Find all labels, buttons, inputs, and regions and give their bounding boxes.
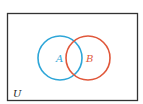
- set-b-label: B: [85, 53, 93, 64]
- set-a-label: A: [55, 53, 63, 64]
- venn-diagram: A B U: [0, 0, 143, 104]
- universe-rectangle: [8, 14, 138, 101]
- universe-label: U: [13, 88, 22, 99]
